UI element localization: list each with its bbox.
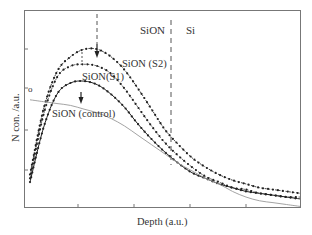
data-point [147, 134, 149, 136]
data-point [53, 77, 55, 79]
data-point [157, 145, 159, 147]
data-point [143, 97, 145, 99]
data-point [210, 169, 212, 171]
data-point [202, 164, 204, 166]
data-point [42, 114, 44, 116]
data-point [144, 131, 146, 133]
data-point [161, 139, 163, 141]
data-point [74, 80, 76, 82]
data-point [37, 147, 39, 149]
data-point [34, 162, 36, 164]
data-point [118, 100, 120, 102]
data-point [228, 178, 230, 180]
data-point [90, 47, 92, 49]
data-point [85, 48, 87, 50]
data-point [230, 186, 232, 188]
data-point [55, 72, 57, 74]
data-point [101, 67, 103, 69]
data-point [224, 176, 226, 178]
data-point [226, 185, 228, 187]
data-point [129, 95, 131, 97]
data-point [100, 50, 102, 52]
data-point [188, 170, 190, 172]
data-point [65, 84, 67, 86]
data-point [186, 152, 188, 154]
data-point [76, 51, 78, 53]
data-point [179, 145, 181, 147]
data-point [158, 135, 160, 137]
data-point [56, 76, 58, 78]
data-point [265, 193, 267, 195]
data-point [289, 197, 291, 199]
data-point [257, 186, 259, 188]
data-point [36, 152, 38, 154]
data-point [41, 119, 43, 121]
data-point [175, 141, 177, 143]
data-point [294, 197, 296, 199]
data-point [121, 104, 123, 106]
data-point [162, 126, 164, 128]
data-point [98, 85, 100, 87]
data-point [72, 54, 74, 56]
data-point [190, 155, 192, 157]
data-point [195, 169, 197, 171]
data-point [165, 143, 167, 145]
data-point [81, 63, 83, 65]
data-point [199, 172, 201, 174]
data-point [86, 63, 88, 65]
y-axis-label: N con. /a.u. [10, 93, 21, 142]
data-point [68, 57, 70, 59]
data-point [80, 49, 82, 51]
data-point [137, 123, 139, 125]
data-point [47, 99, 49, 101]
data-point [36, 143, 38, 145]
data-point [31, 171, 33, 173]
data-point [129, 76, 131, 78]
data-point [277, 189, 279, 191]
data-point [154, 114, 156, 116]
data-point [35, 157, 37, 159]
data-point [138, 89, 140, 91]
data-point [235, 188, 237, 190]
data-point [131, 115, 133, 117]
data-point [120, 83, 122, 85]
data-point [151, 110, 153, 112]
data-point [250, 191, 252, 193]
sion-region-label: SiON [140, 24, 165, 36]
data-point [45, 118, 47, 120]
data-point [140, 111, 142, 113]
data-point [159, 122, 161, 124]
data-point [252, 185, 254, 187]
s2-label: SiON (S2) [122, 58, 167, 70]
data-point [193, 159, 195, 161]
data-point [29, 181, 31, 183]
data-point [42, 128, 44, 130]
data-point [79, 80, 81, 82]
data-point [191, 166, 193, 168]
data-point [179, 156, 181, 158]
data-point [49, 109, 51, 111]
n-concentration-chart: SiON Si SiON (S2) SiON(S1) SiON (control… [0, 0, 312, 235]
data-point [193, 173, 195, 175]
data-point [112, 58, 114, 60]
data-point [53, 100, 55, 102]
data-point [149, 105, 151, 107]
data-point [106, 90, 108, 92]
y-axis-ticks [25, 49, 29, 170]
data-point [262, 187, 264, 189]
data-point [172, 150, 174, 152]
data-point [297, 192, 299, 194]
data-point [96, 65, 98, 67]
control-label: SiON (control) [52, 108, 116, 120]
data-point [143, 115, 145, 117]
data-point [55, 95, 57, 97]
data-point [172, 138, 174, 140]
data-point [110, 93, 112, 95]
data-point [267, 188, 269, 190]
data-point [260, 192, 262, 194]
data-point [47, 113, 49, 115]
data-point [50, 90, 52, 92]
arrow-down-icon [79, 92, 84, 104]
data-point [44, 123, 46, 125]
data-point [128, 111, 130, 113]
